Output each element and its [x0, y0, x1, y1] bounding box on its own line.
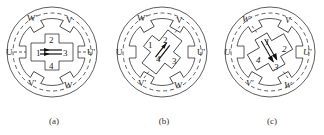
rotor-tooth-3: 3	[172, 56, 177, 66]
rotor-tooth-3: 3	[63, 48, 68, 58]
caption-a: (a)	[0, 116, 108, 126]
rotor-tooth-1: 1	[265, 37, 270, 47]
caption-b: (b)	[110, 116, 218, 126]
label-u-prime: U'	[197, 47, 205, 57]
label-w: W	[284, 80, 293, 90]
label-u: U	[116, 47, 123, 57]
stepper-motor-diagram-a: W' V U U' V' W 2 1 3 4	[0, 0, 108, 115]
label-v: V	[176, 15, 183, 25]
rotor-tooth-1: 1	[36, 48, 41, 58]
label-v: V	[285, 15, 292, 25]
rotor-tooth-4: 4	[256, 55, 261, 65]
label-u-prime: U'	[303, 47, 312, 57]
panel-c: W' V U U' V' W 1 2 3 4 (c)	[218, 0, 324, 135]
rotor-tooth-1: 1	[148, 40, 153, 50]
label-u: U	[224, 47, 231, 57]
label-w-prime: W'	[242, 14, 252, 24]
rotor-tooth-2: 2	[163, 35, 168, 45]
label-v: V	[66, 15, 73, 25]
rotor-tooth-2: 2	[49, 35, 54, 45]
label-v-prime: V'	[246, 78, 254, 88]
caption-c: (c)	[218, 116, 324, 126]
label-u-prime: U'	[87, 47, 95, 57]
label-w: W	[174, 80, 183, 90]
rotor-tooth-3: 3	[273, 62, 279, 72]
rotor	[135, 24, 189, 79]
panel-a: W' V U U' V' W 2 1 3 4 (a)	[0, 0, 108, 135]
label-v-prime: V'	[28, 78, 36, 88]
rotor-tooth-2: 2	[282, 44, 287, 54]
panel-b: W' V U U' V' W 1 2 3 4 (b)	[110, 0, 218, 135]
rotor	[243, 26, 297, 78]
rotor-tooth-4: 4	[156, 54, 161, 64]
stepper-motor-diagram-c: W' V U U' V' W 1 2 3 4	[218, 0, 324, 115]
label-u: U	[6, 47, 13, 57]
rotor-tooth-4: 4	[49, 61, 54, 71]
stepper-motor-diagram-b: W' V U U' V' W 1 2 3 4	[110, 0, 218, 115]
label-w: W	[64, 80, 73, 90]
label-w-prime: W'	[137, 13, 147, 23]
label-v-prime: V'	[138, 78, 146, 88]
label-w-prime: W'	[27, 13, 37, 23]
